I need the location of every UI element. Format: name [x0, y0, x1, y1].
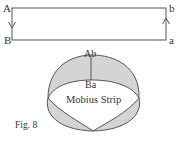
seam-label-top: Ab — [84, 48, 96, 59]
upper-band — [48, 55, 139, 98]
corner-label-top-right: b — [169, 2, 175, 14]
mobius-strip-diagram: Ab Ba Mobius Strip — [47, 48, 139, 131]
corner-label-bottom-right: a — [169, 34, 174, 46]
seam-label-bottom: Ba — [85, 79, 97, 90]
flat-strip-diagram: A B b a — [3, 2, 175, 46]
mobius-strip-title: Mobius Strip — [66, 94, 121, 105]
corner-label-top-left: A — [3, 2, 11, 14]
strip-rectangle — [12, 8, 166, 40]
mobius-strip-figure: A B b a Ab Ba Mobius Strip Fig. 8 — [0, 0, 179, 160]
corner-label-bottom-left: B — [4, 34, 11, 46]
figure-caption: Fig. 8 — [15, 120, 37, 130]
